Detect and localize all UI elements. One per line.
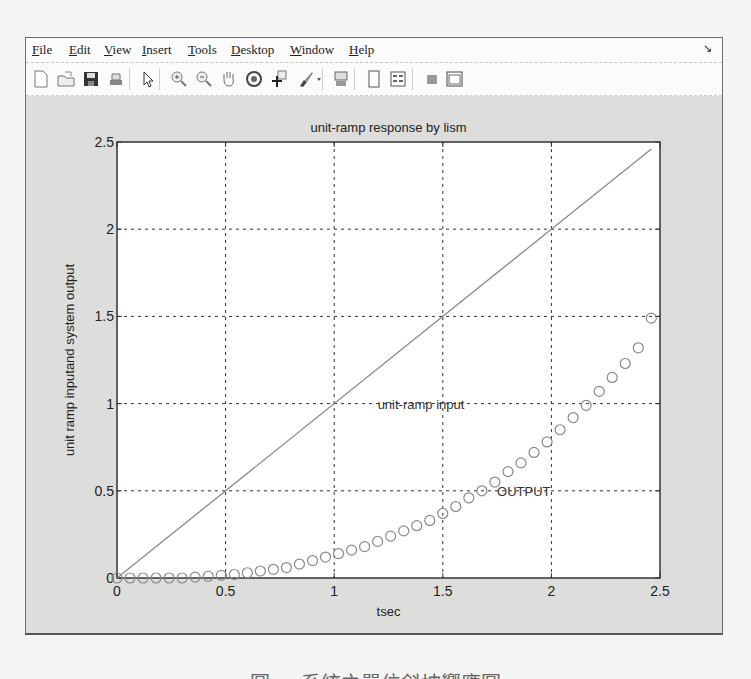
menu-label: dit <box>77 42 91 57</box>
menu-desktop[interactable]: Desktop <box>231 42 274 58</box>
menu-mnemonic: E <box>69 42 77 57</box>
pan-hand-icon[interactable] <box>219 69 239 89</box>
menu-label: indow <box>302 42 335 57</box>
figure-toolbar <box>26 63 722 96</box>
menu-mnemonic: W <box>290 42 302 57</box>
chart-title: unit-ramp response by lism <box>310 120 466 135</box>
menu-file[interactable]: File <box>32 42 52 58</box>
figure-window: ↘ FileEditViewInsertToolsDesktopWindowHe… <box>25 37 723 635</box>
x-axis-label: tsec <box>377 604 401 619</box>
y-tick-label: 0.5 <box>95 483 115 499</box>
menu-mnemonic: V <box>104 42 113 57</box>
x-tick-label: 0 <box>113 583 121 599</box>
y-tick-label: 0 <box>106 570 114 586</box>
menu-view[interactable]: View <box>104 42 131 58</box>
menu-label: nsert <box>146 42 171 57</box>
y-tick-label: 1 <box>106 396 114 412</box>
rotate-3d-icon[interactable] <box>244 69 264 89</box>
colorbar-icon[interactable] <box>364 69 384 89</box>
brush-dropdown-chevron-icon[interactable] <box>316 69 322 89</box>
plot-axes[interactable]: 00.511.522.500.511.522.5unit-ramp inputO… <box>26 96 724 636</box>
edit-plot-arrow-icon[interactable] <box>138 69 158 89</box>
toolbar-separator <box>412 68 413 90</box>
menu-help[interactable]: Help <box>349 42 374 58</box>
toolbar-separator <box>354 68 355 90</box>
y-axis-label: unit ramp inputand system output <box>62 264 77 457</box>
y-tick-label: 2.5 <box>95 134 115 150</box>
toolbar-separator <box>129 68 130 90</box>
menu-tools[interactable]: Tools <box>188 42 217 58</box>
menu-label: ools <box>195 42 217 57</box>
new-figure-icon[interactable] <box>31 69 51 89</box>
menu-mnemonic: H <box>349 42 358 57</box>
figure-canvas: 00.511.522.500.511.522.5unit-ramp inputO… <box>26 96 722 633</box>
menu-label: esktop <box>240 42 274 57</box>
figure-caption: 圖 ... 系統之單位斜坡響應圖 <box>0 668 751 679</box>
menu-label: elp <box>358 42 374 57</box>
menu-bar: ↘ FileEditViewInsertToolsDesktopWindowHe… <box>26 38 722 63</box>
toolbar-separator <box>159 68 160 90</box>
y-tick-label: 1.5 <box>95 308 115 324</box>
data-cursor-icon[interactable] <box>269 69 289 89</box>
menu-label: ile <box>39 42 52 57</box>
x-tick-label: 1.5 <box>433 583 453 599</box>
x-tick-label: 0.5 <box>216 583 236 599</box>
menu-insert[interactable]: Insert <box>142 42 172 58</box>
menu-edit[interactable]: Edit <box>69 42 91 58</box>
x-tick-label: 2.5 <box>650 583 670 599</box>
zoom-in-icon[interactable] <box>169 69 189 89</box>
zoom-out-icon[interactable] <box>194 69 214 89</box>
x-tick-label: 1 <box>330 583 338 599</box>
show-plot-tools-icon[interactable] <box>444 69 464 89</box>
annotation-label: unit-ramp input <box>378 397 465 412</box>
y-tick-label: 2 <box>106 221 114 237</box>
open-file-icon[interactable] <box>56 69 76 89</box>
menu-window[interactable]: Window <box>290 42 334 58</box>
menu-mnemonic: T <box>188 42 195 57</box>
legend-icon[interactable] <box>388 69 408 89</box>
print-figure-icon[interactable] <box>106 69 126 89</box>
menu-mnemonic: D <box>231 42 240 57</box>
hide-plot-tools-icon[interactable] <box>422 69 442 89</box>
menu-label: iew <box>113 42 132 57</box>
dock-arrow-icon[interactable]: ↘ <box>703 42 712 55</box>
brush-icon[interactable] <box>296 69 316 89</box>
link-plot-icon[interactable] <box>331 69 351 89</box>
save-figure-icon[interactable] <box>81 69 101 89</box>
annotation-label: OUTPUT <box>497 484 550 499</box>
toolbar-separator <box>322 68 323 90</box>
x-tick-label: 2 <box>548 583 556 599</box>
